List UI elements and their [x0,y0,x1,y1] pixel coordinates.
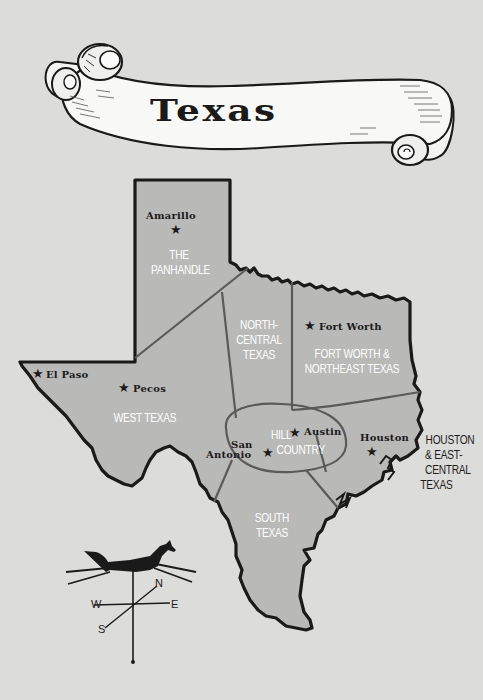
region-label-west-texas: WEST TEXAS [110,410,180,425]
compass-north-label: N [155,577,163,589]
region-label-line: TEXAS [249,525,296,540]
region-label-line: CENTRAL [233,332,284,347]
region-label-line: WEST TEXAS [110,410,180,425]
region-label-line: COUNTRY [277,442,324,457]
star-icon: ★ [366,445,378,458]
city-label-san-antonio-line2: Antonio [206,449,251,460]
region-label-line: TEXAS [233,347,284,362]
region-label-line: NORTHEAST TEXAS [304,361,401,376]
region-label-line: PANHANDLE [151,262,207,277]
star-icon: ★ [304,319,316,332]
compass-west-label: W [91,598,101,610]
region-label-line: TEXAS [420,477,475,492]
region-label-houston-east-central-texas: HOUSTON & EAST- CENTRAL TEXAS [425,432,475,492]
city-label-houston: Houston [360,432,409,443]
city-label-austin: Austin [304,426,342,437]
city-label-amarillo: Amarillo [146,210,196,221]
compass-east-label: E [171,598,178,610]
region-label-line: & EAST- [425,447,475,462]
map-title: Texas [150,93,278,128]
star-icon: ★ [32,367,44,380]
region-label-hill-country-line2: COUNTRY [277,442,324,457]
region-label-south-texas: SOUTH TEXAS [249,510,296,540]
texas-regions-map-page: Texas THE PANHANDLE NORTH- CENTRAL TEXAS… [0,0,483,700]
city-label-pecos: Pecos [133,383,166,394]
star-icon: ★ [170,223,182,236]
star-icon: ★ [262,446,274,459]
city-label-el-paso: El Paso [46,369,88,380]
region-label-line: HOUSTON [425,432,475,447]
region-label-panhandle: THE PANHANDLE [151,247,207,277]
region-label-fort-worth-northeast-texas: FORT WORTH & NORTHEAST TEXAS [304,346,401,376]
star-icon: ★ [289,426,301,439]
compass-south-label: S [98,623,105,635]
city-label-fort-worth: Fort Worth [319,321,382,332]
region-label-line: FORT WORTH & [304,346,401,361]
region-label-line: THE [151,247,207,262]
star-icon: ★ [118,381,130,394]
region-label-line: NORTH- [233,317,284,332]
texas-state-outline [20,180,422,630]
region-label-line: CENTRAL [425,462,475,477]
region-label-north-central-texas: NORTH- CENTRAL TEXAS [233,317,284,362]
region-label-line: SOUTH [249,510,296,525]
